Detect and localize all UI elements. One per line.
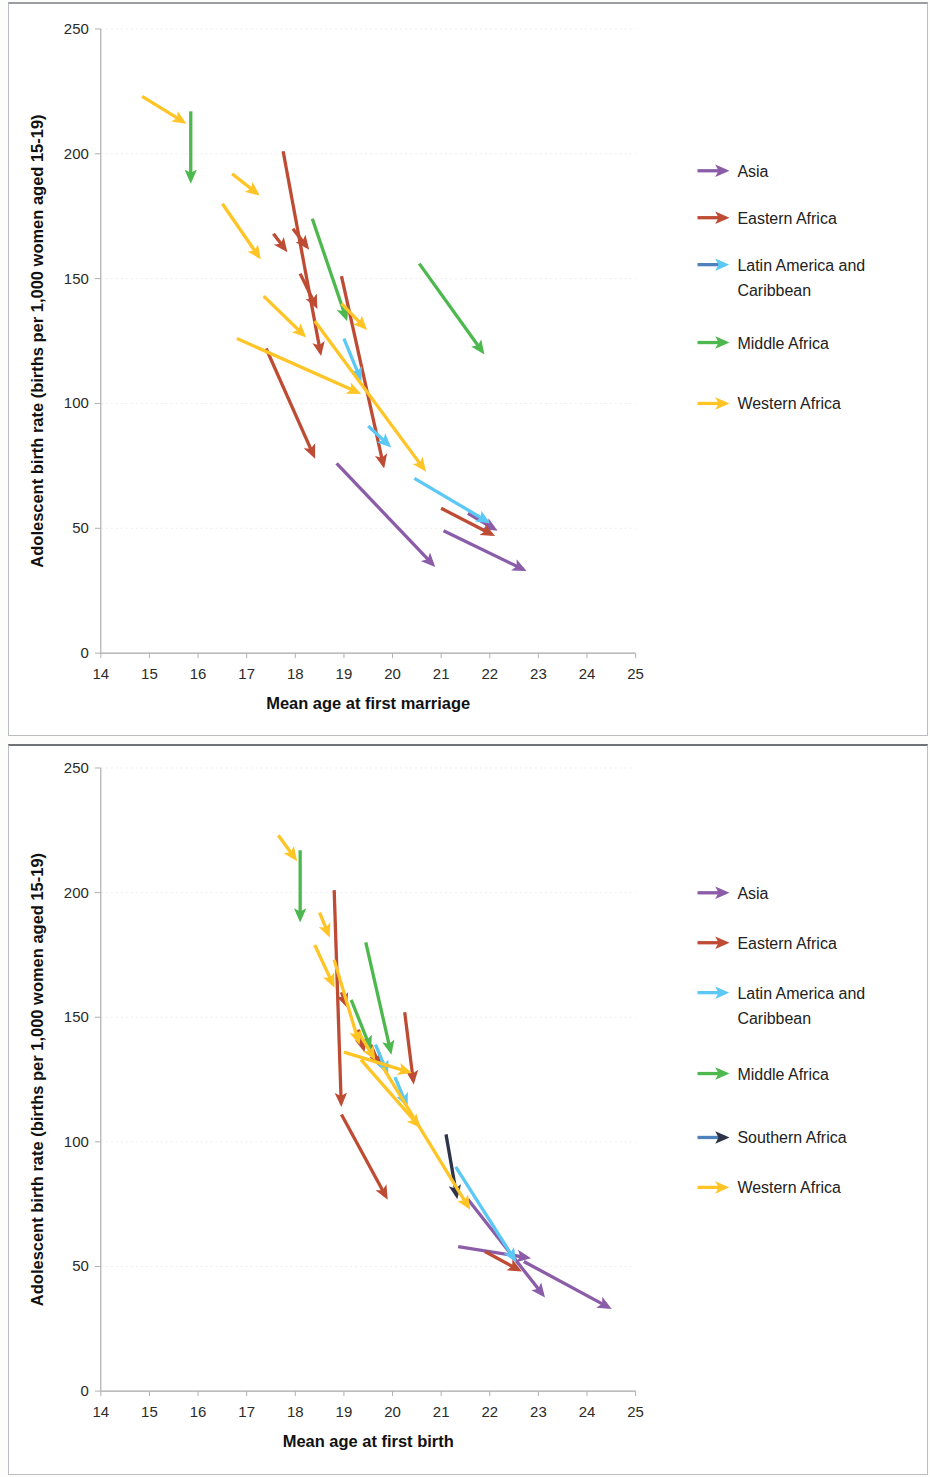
data-arrow [361, 1060, 418, 1126]
legend-label: Eastern Africa [737, 210, 836, 227]
gridlines [101, 29, 636, 528]
x-tick-label: 16 [190, 665, 207, 682]
y-tick-label: 0 [81, 644, 89, 661]
data-arrow [266, 349, 313, 456]
legend-item-western-africa[interactable]: Western Africa [698, 1179, 842, 1196]
legend: AsiaEastern AfricaLatin America andCarib… [698, 163, 866, 413]
legend-item-eastern-africa[interactable]: Eastern Africa [698, 935, 837, 952]
x-tick-label: 21 [433, 1403, 450, 1420]
legend-label: Eastern Africa [737, 935, 836, 952]
data-arrows [142, 96, 523, 569]
data-arrow [237, 339, 358, 393]
x-tick-label: 22 [481, 665, 498, 682]
data-arrow [315, 321, 424, 469]
y-axis-title: Adolescent birth rate (births per 1,000 … [28, 114, 46, 567]
y-axis-ticks: 050100150200250 [64, 759, 101, 1399]
data-arrow [222, 204, 258, 257]
data-arrow [264, 296, 304, 335]
gridlines [101, 768, 636, 1267]
legend-label-continued: Caribbean [737, 282, 811, 299]
data-arrow [337, 463, 433, 564]
axes [101, 29, 636, 653]
x-axis-title: Mean age at first marriage [266, 694, 470, 712]
data-arrow [383, 1067, 468, 1206]
y-tick-label: 250 [64, 759, 89, 776]
legend-label-continued: Caribbean [737, 1010, 811, 1027]
legend: AsiaEastern AfricaLatin America andCarib… [698, 885, 866, 1197]
legend-item-asia[interactable]: Asia [698, 885, 769, 902]
chart-panel-top: 050100150200250141516171819202122232425M… [8, 2, 928, 736]
data-arrow [341, 1114, 385, 1196]
legend-label: Middle Africa [737, 335, 828, 352]
x-tick-label: 21 [433, 665, 450, 682]
x-tick-label: 19 [336, 1403, 353, 1420]
series-latin-america-and-caribbean [376, 1045, 515, 1259]
x-tick-label: 24 [579, 1403, 596, 1420]
legend-label: Asia [737, 163, 768, 180]
y-tick-label: 150 [64, 1008, 89, 1025]
x-tick-label: 17 [238, 1403, 255, 1420]
x-tick-label: 15 [141, 665, 158, 682]
y-tick-label: 200 [64, 145, 89, 162]
series-asia [458, 1199, 608, 1307]
x-tick-label: 14 [92, 665, 109, 682]
x-axis-ticks: 141516171819202122232425 [92, 1391, 643, 1420]
x-tick-label: 24 [579, 665, 596, 682]
legend-item-latin-america-and-caribbean[interactable]: Latin America andCaribbean [698, 257, 866, 299]
chart-bottom: 050100150200250141516171819202122232425M… [9, 746, 927, 1474]
y-tick-label: 50 [72, 519, 89, 536]
data-arrow [419, 264, 482, 352]
data-arrow [315, 945, 333, 984]
y-tick-label: 250 [64, 20, 89, 37]
legend-item-eastern-africa[interactable]: Eastern Africa [698, 210, 837, 227]
axis-lines [101, 768, 636, 1391]
data-arrow [232, 174, 257, 193]
x-tick-label: 23 [530, 1403, 547, 1420]
legend-label: Asia [737, 885, 768, 902]
legend-label: Western Africa [737, 395, 841, 412]
y-axis-title: Adolescent birth rate (births per 1,000 … [28, 853, 46, 1306]
x-tick-label: 14 [92, 1403, 109, 1420]
data-arrow [366, 942, 391, 1050]
legend-item-southern-africa[interactable]: Southern Africa [698, 1129, 847, 1146]
x-axis-title: Mean age at first birth [283, 1432, 454, 1450]
y-tick-label: 150 [64, 270, 89, 287]
y-tick-label: 100 [64, 1133, 89, 1150]
legend-label: Latin America and [737, 985, 865, 1002]
legend-item-middle-africa[interactable]: Middle Africa [698, 335, 829, 352]
chart-panel-bottom: 050100150200250141516171819202122232425M… [8, 744, 928, 1475]
legend-item-middle-africa[interactable]: Middle Africa [698, 1066, 829, 1083]
series-eastern-africa [334, 890, 518, 1270]
legend-label: Southern Africa [737, 1129, 846, 1146]
data-arrow [278, 835, 295, 858]
data-arrows [278, 835, 608, 1307]
data-arrow [468, 513, 494, 528]
data-arrow [334, 890, 341, 1103]
figure-page: 050100150200250141516171819202122232425M… [0, 0, 930, 1477]
x-tick-label: 23 [530, 665, 547, 682]
y-axis-ticks: 050100150200250 [64, 20, 101, 661]
y-tick-label: 200 [64, 884, 89, 901]
series-middle-africa [300, 850, 390, 1051]
series-eastern-africa [266, 151, 491, 534]
legend-item-western-africa[interactable]: Western Africa [698, 395, 842, 412]
x-tick-label: 19 [336, 665, 353, 682]
legend-label: Latin America and [737, 257, 865, 274]
x-tick-label: 18 [287, 665, 304, 682]
x-tick-label: 16 [190, 1403, 207, 1420]
series-middle-africa [191, 111, 482, 351]
legend-item-asia[interactable]: Asia [698, 163, 769, 180]
data-arrow [444, 531, 523, 570]
legend-item-latin-america-and-caribbean[interactable]: Latin America andCaribbean [698, 985, 866, 1027]
series-western-africa [278, 835, 468, 1206]
x-tick-label: 25 [627, 1403, 644, 1420]
data-arrow [273, 234, 285, 249]
data-arrow [312, 219, 346, 318]
x-tick-label: 15 [141, 1403, 158, 1420]
x-tick-label: 25 [627, 665, 644, 682]
x-tick-label: 20 [384, 665, 401, 682]
y-tick-label: 100 [64, 394, 89, 411]
y-tick-label: 0 [81, 1382, 89, 1399]
x-tick-label: 18 [287, 1403, 304, 1420]
data-arrow [142, 96, 183, 121]
